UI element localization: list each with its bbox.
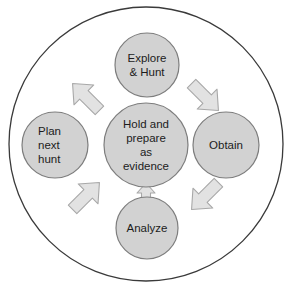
node-hold-and-prepare-as-evidence[interactable]: Hold and prepare as evidence xyxy=(104,103,188,187)
center-node-label-line-2: prepare xyxy=(126,132,166,144)
node-explore-and-hunt-circle[interactable] xyxy=(115,33,179,97)
node-plan-next-hunt[interactable]: Plan next hunt xyxy=(22,112,88,178)
node-plan-next-hunt-label-line-3: hunt xyxy=(38,153,61,165)
center-node-label-line-4: evidence xyxy=(123,160,169,172)
node-plan-next-hunt-label-line-2: next xyxy=(38,139,61,151)
center-node-label-line-1: Hold and xyxy=(123,118,169,130)
node-obtain-label: Obtain xyxy=(209,139,243,151)
center-node-label-line-3: as xyxy=(140,146,152,158)
node-analyze[interactable]: Analyze xyxy=(116,197,178,259)
node-explore-and-hunt-label-line-1: Explore xyxy=(128,52,167,64)
cycle-diagram: Explore & Hunt Obtain Analyze Plan next … xyxy=(0,0,295,289)
node-plan-next-hunt-label-line-1: Plan xyxy=(38,125,61,137)
node-analyze-label: Analyze xyxy=(127,222,168,234)
node-explore-and-hunt-label-line-2: & Hunt xyxy=(129,66,165,78)
node-obtain[interactable]: Obtain xyxy=(193,112,259,178)
node-hold-and-prepare-as-evidence-circle[interactable] xyxy=(104,103,188,187)
cycle-diagram-canvas: Explore & Hunt Obtain Analyze Plan next … xyxy=(0,0,295,289)
node-explore-and-hunt[interactable]: Explore & Hunt xyxy=(115,33,179,97)
